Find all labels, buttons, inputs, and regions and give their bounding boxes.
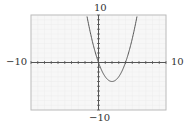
y-max-label: 10 xyxy=(94,3,107,13)
y-min-label: −10 xyxy=(89,113,110,123)
x-min-label: −10 xyxy=(6,57,27,67)
graph-window xyxy=(0,0,187,127)
x-max-label: 10 xyxy=(171,57,184,67)
